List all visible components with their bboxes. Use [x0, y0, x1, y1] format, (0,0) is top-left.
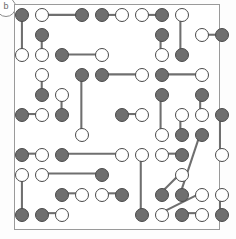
lattice-node-open [55, 208, 69, 222]
lattice-node-filled [215, 108, 229, 122]
lattice-node-open [35, 68, 49, 82]
lattice-node-filled [155, 68, 169, 82]
lattice-node-open [115, 8, 129, 22]
lattice-node-filled [195, 128, 209, 142]
lattice-node-filled [215, 28, 229, 42]
lattice-node-open [195, 188, 209, 202]
figure-canvas: b [0, 0, 236, 239]
lattice-node-filled [35, 28, 49, 42]
lattice-node-filled [55, 148, 69, 162]
lattice-node-open [35, 8, 49, 22]
lattice-node-filled [115, 188, 129, 202]
lattice-node-open [135, 108, 149, 122]
lattice-node-open [175, 8, 189, 22]
lattice-node-open [135, 68, 149, 82]
lattice-node-open [215, 188, 229, 202]
lattice-node-filled [35, 88, 49, 102]
lattice-node-open [155, 48, 169, 62]
lattice-node-filled [175, 48, 189, 62]
lattice-node-filled [175, 148, 189, 162]
lattice-node-filled [15, 8, 29, 22]
lattice-node-filled [135, 208, 149, 222]
lattice-node-open [155, 128, 169, 142]
lattice-node-filled [55, 108, 69, 122]
lattice-node-open [155, 148, 169, 162]
lattice-node-open [175, 168, 189, 182]
lattice-node-open [215, 148, 229, 162]
lattice-node-filled [75, 8, 89, 22]
lattice-node-filled [35, 208, 49, 222]
lattice-node-filled [55, 188, 69, 202]
lattice-node-filled [15, 208, 29, 222]
lattice-node-open [15, 168, 29, 182]
lattice-node-filled [155, 8, 169, 22]
lattice-node-open [175, 108, 189, 122]
lattice-node-open [195, 28, 209, 42]
lattice-node-open [35, 48, 49, 62]
lattice-node-open [135, 8, 149, 22]
dimer-edge [180, 134, 200, 193]
lattice-node-filled [55, 48, 69, 62]
lattice-node-open [35, 148, 49, 162]
lattice-frame [14, 4, 220, 230]
lattice-node-open [75, 188, 89, 202]
lattice-node-filled [95, 8, 109, 22]
lattice-node-filled [155, 28, 169, 42]
lattice-node-filled [215, 208, 229, 222]
lattice-node-filled [155, 88, 169, 102]
lattice-node-open [35, 168, 49, 182]
lattice-node-open [35, 108, 49, 122]
lattice-node-open [195, 208, 209, 222]
lattice-node-open [135, 148, 149, 162]
lattice-node-filled [15, 148, 29, 162]
lattice-node-open [55, 88, 69, 102]
lattice-node-open [15, 48, 29, 62]
lattice-node-open [95, 48, 109, 62]
lattice-node-open [195, 108, 209, 122]
lattice-node-open [195, 68, 209, 82]
lattice-node-filled [175, 188, 189, 202]
lattice-node-filled [95, 168, 109, 182]
lattice-node-filled [175, 128, 189, 142]
lattice-node-filled [175, 208, 189, 222]
lattice-node-open [75, 128, 89, 142]
lattice-node-filled [155, 188, 169, 202]
lattice-node-open [155, 208, 169, 222]
lattice-node-filled [115, 108, 129, 122]
lattice-node-filled [195, 88, 209, 102]
lattice-node-open [95, 188, 109, 202]
lattice-node-filled [15, 108, 29, 122]
lattice-node-filled [75, 68, 89, 82]
lattice-node-filled [95, 68, 109, 82]
lattice-node-open [115, 148, 129, 162]
